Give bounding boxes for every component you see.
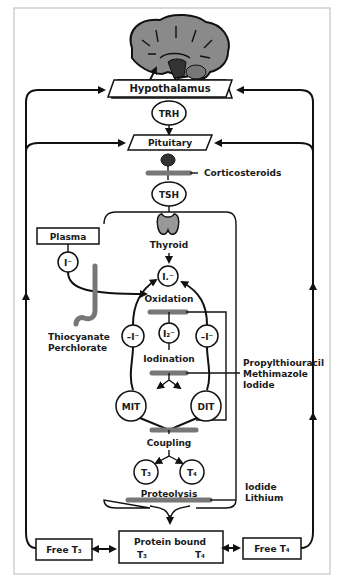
free-t4-hypothalamus-feedback (238, 90, 313, 548)
thiocyanate-label: Thiocyanate (48, 332, 110, 342)
free-t3-pituitary-feedback (26, 143, 124, 160)
intracellular-iodide-label: I.⁻ (162, 272, 174, 282)
ptu-methimazole-iodide-labels: Propylthiouracil Methimazole Iodide (243, 358, 324, 390)
trh-label: TRH (159, 109, 180, 119)
thyroid-label: Thyroid (150, 240, 189, 250)
iodine-label: I₂⁻ (163, 329, 175, 339)
deiodinase-left-node: –I⁻ (122, 325, 144, 347)
mit-label: MIT (122, 402, 141, 412)
pituitary-node: Pituitary (128, 135, 212, 166)
dit-label: DIT (198, 402, 216, 412)
thyroid-regulation-diagram: Hypothalamus TRH Pituitary Corticosteroi… (0, 0, 340, 583)
free-t4-pituitary-feedback (216, 143, 313, 160)
protein-bound-node: Protein bound T₃ T₄ (119, 531, 223, 563)
iodination-label: Iodination (143, 354, 195, 364)
hypothalamus-node: Hypothalamus (108, 80, 232, 98)
deiodinase-right-label: –I⁻ (201, 332, 214, 342)
thiocyanate-perchlorate-inhibitor: Thiocyanate Perchlorate (48, 266, 110, 353)
oxidation-label: Oxidation (144, 294, 193, 304)
iodine-node: I₂⁻ Iodination (143, 312, 195, 364)
t3-label: T₃ (141, 468, 151, 478)
deiodinase-left-label: –I⁻ (127, 332, 140, 342)
tsh-label: TSH (159, 190, 179, 200)
lithium-label: Lithium (245, 493, 283, 503)
dit-node: DIT (191, 391, 221, 421)
thyroid-gland-icon: Thyroid (150, 214, 189, 262)
plasma-iodide-label: I⁻ (64, 258, 72, 268)
trh-node: TRH (152, 101, 186, 134)
protein-bound-t4-label: T₄ (195, 550, 205, 560)
protein-bound-t3-label: T₃ (137, 550, 147, 560)
deiodinase-right-node: –I⁻ (196, 325, 218, 347)
hypothalamus-label: Hypothalamus (129, 83, 210, 94)
methimazole-label: Methimazole (243, 369, 308, 379)
brain-icon (131, 15, 229, 84)
pituitary-label: Pituitary (148, 138, 192, 148)
pituitary-gland-icon (161, 154, 175, 166)
mit-node: MIT (116, 391, 146, 421)
free-t3-node: Free T₃ (36, 539, 92, 560)
corticosteroids-inhibitor: Corticosteroids (148, 166, 281, 180)
corticosteroids-label: Corticosteroids (204, 168, 281, 178)
iodide-label-2: Iodide (245, 482, 277, 492)
t4-node: T₄ (180, 460, 204, 484)
protein-bound-label: Protein bound (134, 537, 206, 547)
tsh-node: TSH (152, 182, 186, 212)
plasma-label: Plasma (50, 232, 87, 242)
t3-node: T₃ (134, 460, 158, 484)
free-t4-node: Free T₄ (243, 538, 301, 559)
plasma-node: Plasma I⁻ (37, 228, 146, 294)
iodide-lithium-labels: Iodide Lithium (245, 482, 283, 503)
free-t3-label: Free T₃ (46, 545, 81, 555)
t4-label: T₄ (187, 468, 197, 478)
coupling-label: Coupling (147, 438, 192, 448)
free-t4-label: Free T₄ (254, 544, 289, 554)
propylthiouracil-label: Propylthiouracil (243, 358, 324, 368)
iodide-label-1: Iodide (243, 380, 275, 390)
perchlorate-label: Perchlorate (48, 343, 107, 353)
